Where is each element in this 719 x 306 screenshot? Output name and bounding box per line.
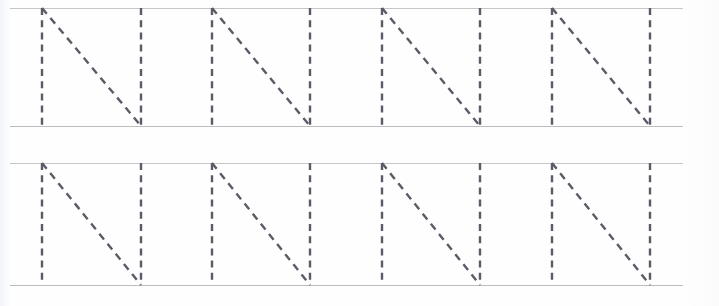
letter-n-2 (211, 8, 311, 126)
letter-n-3 (381, 8, 481, 126)
letter-n-diagonal-stroke (552, 163, 650, 285)
letter-n-6 (211, 163, 311, 285)
letter-n-5 (41, 163, 142, 285)
letter-n-diagonal-stroke (42, 163, 141, 285)
letter-n-1 (41, 8, 142, 126)
letter-n-diagonal-stroke (42, 8, 141, 126)
baseline-rule-line (10, 285, 683, 286)
letter-n-diagonal-stroke (382, 8, 480, 126)
letter-n-8 (551, 163, 651, 285)
baseline-rule-line (10, 126, 683, 127)
right-margin-shading (685, 0, 719, 306)
letter-n-diagonal-stroke (552, 8, 650, 126)
handwriting-worksheet (0, 0, 719, 306)
letter-n-diagonal-stroke (212, 163, 310, 285)
letter-n-7 (381, 163, 481, 285)
left-margin-shading (0, 0, 11, 306)
letter-n-diagonal-stroke (382, 163, 480, 285)
letter-n-diagonal-stroke (212, 8, 310, 126)
letter-n-4 (551, 8, 651, 126)
